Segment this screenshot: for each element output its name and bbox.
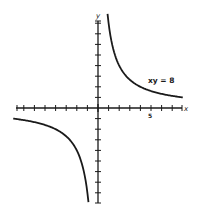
y-axis-label: y <box>95 12 101 20</box>
tick-label-5: 5 <box>148 112 152 119</box>
x-axis-label: x <box>183 105 189 113</box>
equation-annotation: xy = 8 <box>148 76 174 85</box>
hyperbola-chart: x y xy = 8 5 <box>0 0 199 209</box>
axes <box>16 21 182 203</box>
hyperbola-branch-q3 <box>13 119 88 203</box>
